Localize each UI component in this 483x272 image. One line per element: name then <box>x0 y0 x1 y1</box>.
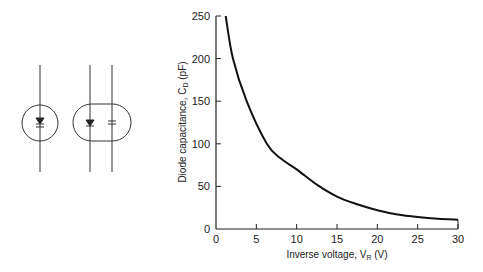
x-tick-label: 0 <box>213 233 219 245</box>
y-tick-label: 200 <box>192 53 210 65</box>
y-tick-label: 150 <box>192 95 210 107</box>
envelope-rounded <box>73 104 131 141</box>
capacitance-curve <box>226 16 458 220</box>
tick-labels: 051015202530050100150200250 <box>192 10 464 245</box>
y-axis-label: Diode capacitance, CD (pF) <box>177 61 189 182</box>
varactor-symbol-dual <box>73 65 131 172</box>
x-tick-label: 10 <box>291 233 303 245</box>
x-axis-label: Inverse voltage, VR (V) <box>286 249 387 261</box>
x-tick-label: 5 <box>253 233 259 245</box>
y-tick-label: 250 <box>192 10 210 22</box>
y-tick-label: 0 <box>204 223 210 235</box>
x-tick-label: 25 <box>412 233 424 245</box>
diode-icon <box>36 118 44 124</box>
y-tick-label: 50 <box>198 180 210 192</box>
y-tick-label: 100 <box>192 138 210 150</box>
varactor-symbol-single <box>22 65 58 172</box>
x-tick-label: 20 <box>371 233 383 245</box>
x-tick-label: 15 <box>331 233 343 245</box>
x-tick-label: 30 <box>452 233 464 245</box>
figure: 051015202530050100150200250 Diode capaci… <box>0 0 483 272</box>
capacitance-chart: 051015202530050100150200250 Diode capaci… <box>177 10 464 261</box>
diode-icon <box>86 120 94 126</box>
